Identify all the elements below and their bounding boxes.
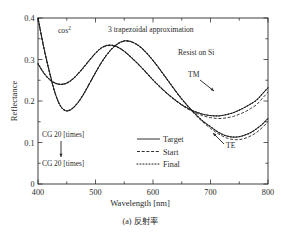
- y-axis-label: Reflectance: [9, 81, 19, 122]
- y-tick-label: 0.4: [24, 14, 34, 23]
- te-label: TE: [226, 141, 236, 150]
- approximation-annotation: 3 trapezoidal approximation: [108, 25, 194, 34]
- cg-annotation-top: CG 20 [times]: [42, 130, 84, 139]
- legend-label: Final: [163, 160, 181, 169]
- x-tick-label: 600: [147, 188, 159, 197]
- legend-label: Target: [163, 135, 184, 144]
- tm-label: TM: [188, 70, 200, 79]
- figure-caption: (a) 反射率: [122, 216, 157, 226]
- x-tick-label: 700: [204, 188, 216, 197]
- reflectance-figure: 400500600700800 00.10.20.30.4 cos2 3 tra…: [0, 0, 281, 234]
- x-tick-label: 500: [89, 188, 101, 197]
- legend-label: Start: [163, 148, 179, 157]
- x-tick-label: 400: [32, 188, 44, 197]
- y-tick-label: 0.3: [24, 56, 34, 65]
- x-tick-label: 800: [262, 188, 274, 197]
- material-annotation: Resist on Si: [178, 48, 214, 57]
- y-tick-label: 0.1: [24, 139, 34, 148]
- x-axis-label: Wavelength [nm]: [110, 198, 170, 208]
- y-tick-label: 0: [30, 180, 34, 189]
- cg-annotation-bottom: CG 20 [times]: [42, 159, 84, 168]
- y-tick-label: 0.2: [24, 97, 34, 106]
